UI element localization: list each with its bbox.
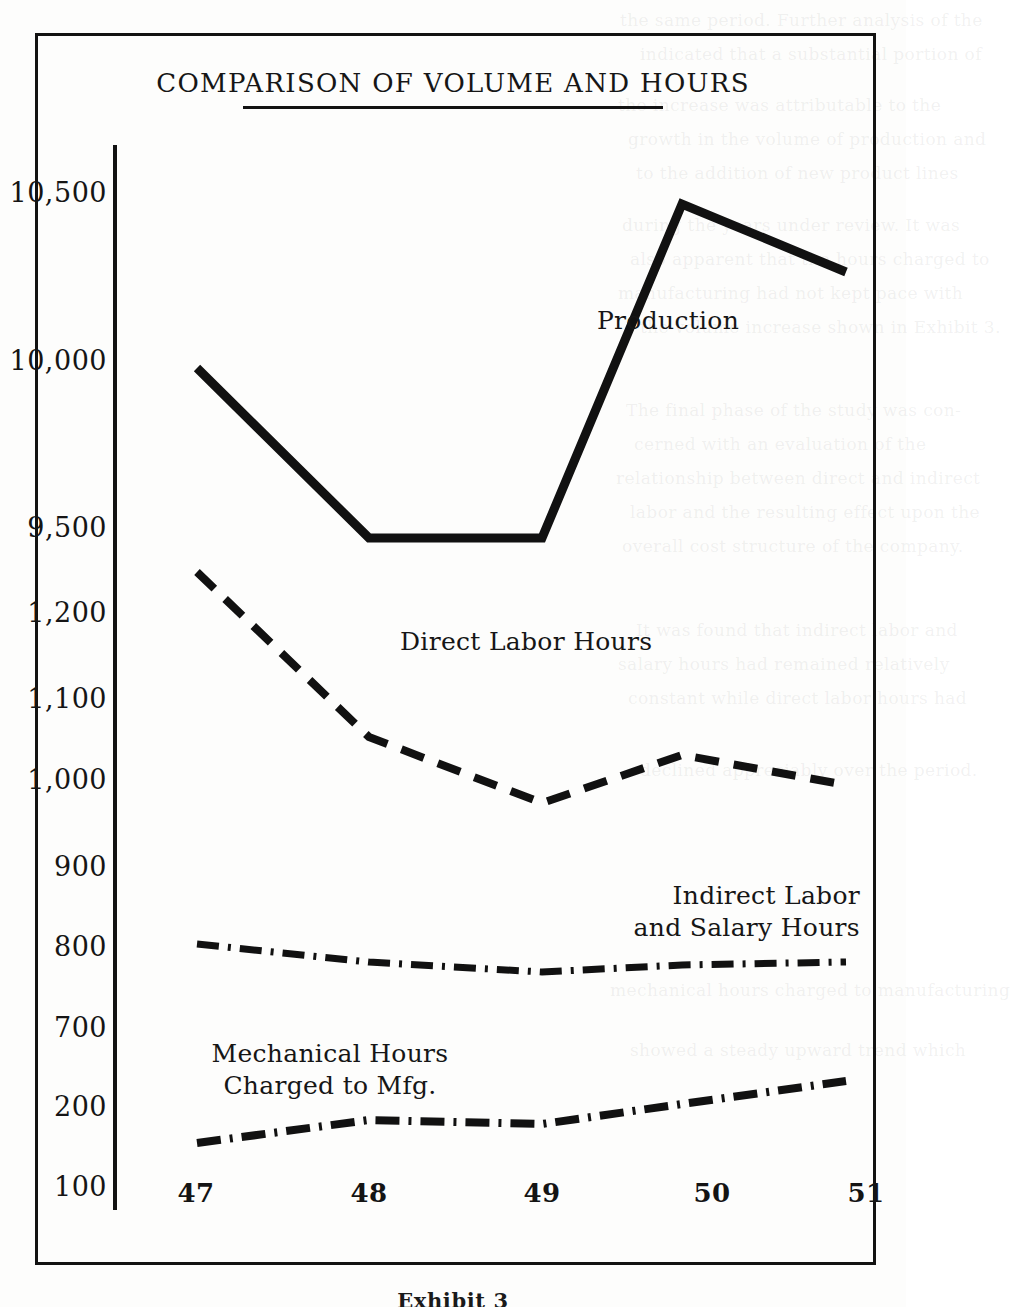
y-tick-label: 700: [54, 1012, 107, 1043]
x-tick-51: 51: [847, 1178, 884, 1208]
y-axis-line: [113, 145, 117, 1210]
y-tick-label: 1,200: [27, 597, 107, 628]
x-tick-50: 50: [693, 1178, 730, 1208]
series-label-mechanical-hours-line2: Charged to Mfg.: [175, 1070, 485, 1101]
exhibit-caption: Exhibit 3: [0, 1288, 906, 1307]
series-label-indirect-labor-line2: and Salary Hours: [480, 912, 860, 943]
y-tick-label: 800: [54, 931, 107, 962]
series-label-mechanical-hours-line1: Mechanical Hours: [175, 1038, 485, 1069]
y-tick-label: 10,500: [10, 177, 107, 208]
series-label-production: Production: [597, 305, 739, 336]
y-tick-label: 1,100: [27, 683, 107, 714]
y-tick-label: 900: [54, 851, 107, 882]
y-tick-label: 100: [54, 1171, 107, 1202]
chart-title-underline: [243, 106, 663, 109]
y-tick-label: 1,000: [27, 764, 107, 795]
series-label-direct-labor-hours: Direct Labor Hours: [400, 626, 652, 657]
series-label-indirect-labor-line1: Indirect Labor: [480, 880, 860, 911]
bleed-text-line: the same period. Further analysis of the: [620, 10, 983, 30]
y-tick-label: 200: [54, 1091, 107, 1122]
x-tick-47: 47: [177, 1178, 214, 1208]
y-tick-label: 10,000: [10, 345, 107, 376]
x-tick-48: 48: [350, 1178, 387, 1208]
x-tick-49: 49: [523, 1178, 560, 1208]
y-tick-label: 9,500: [27, 512, 107, 543]
chart-title: COMPARISON OF VOLUME AND HOURS: [0, 68, 906, 98]
